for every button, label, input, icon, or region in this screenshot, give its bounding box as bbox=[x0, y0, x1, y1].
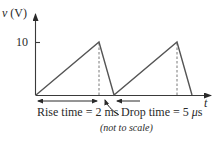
rise-time-label: Rise time = 2 ms bbox=[37, 105, 119, 119]
y-axis-unit: (V) bbox=[7, 6, 27, 20]
sawtooth-diagram: v (V) 10 t Rise time = 2 ms Drop time = … bbox=[0, 0, 223, 141]
drop-time-mu: μ bbox=[191, 105, 198, 119]
y-axis-label: v (V) bbox=[2, 6, 27, 20]
y-tick-label: 10 bbox=[16, 35, 28, 49]
x-axis-label: t bbox=[204, 96, 208, 110]
drop-time-text: Drop time = 5 bbox=[121, 105, 192, 119]
sawtooth-waveform bbox=[36, 42, 192, 95]
drop-time-unit: s bbox=[198, 105, 203, 119]
drop-time-label: Drop time = 5 μs bbox=[121, 105, 203, 119]
not-to-scale-note: (not to scale) bbox=[100, 122, 153, 134]
